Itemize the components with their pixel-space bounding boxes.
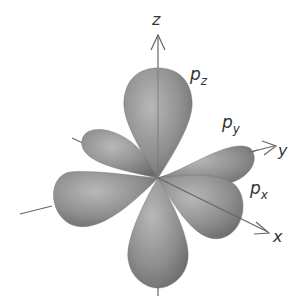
py-label: py xyxy=(221,112,241,136)
y-axis xyxy=(250,146,274,152)
p-orbitals-diagram: z y x pz py px xyxy=(0,0,296,296)
pz-label: pz xyxy=(189,64,208,88)
px-label: px xyxy=(249,178,269,202)
x-axis-label: x xyxy=(272,227,283,246)
x-arrow-icon xyxy=(254,222,269,234)
y-axis-label: y xyxy=(277,141,288,160)
z-axis-label: z xyxy=(151,10,161,29)
